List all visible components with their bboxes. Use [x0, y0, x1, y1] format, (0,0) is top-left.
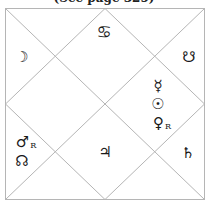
moon-icon: ☽	[15, 50, 28, 65]
mars-icon: ♂	[16, 133, 29, 151]
venus-retrograde: ♀R	[153, 116, 171, 131]
mars-retrograde: ♂R	[16, 135, 36, 150]
north-node-icon: ☊	[15, 154, 28, 169]
venus-icon: ♀	[153, 114, 164, 132]
retrograde-label: R	[30, 141, 36, 150]
sun-icon: ☉	[151, 97, 164, 112]
saturn-icon: ♄	[181, 146, 194, 161]
cancer-sign-icon: ♋	[96, 24, 111, 41]
mercury-icon: ☿	[153, 79, 162, 94]
south-node-icon: ☋	[182, 50, 195, 65]
retrograde-label: R	[165, 122, 171, 131]
jupiter-icon: ♃	[98, 145, 111, 160]
